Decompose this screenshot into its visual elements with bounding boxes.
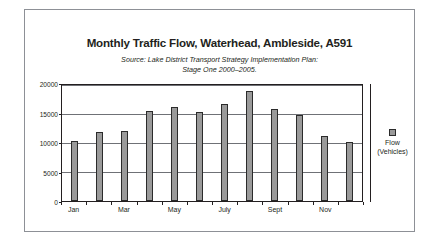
- legend-label-line-1: Flow: [377, 139, 408, 148]
- x-tick-label-empty: [338, 206, 363, 213]
- bar-slot: [162, 85, 187, 201]
- x-axis-labels: JanMarMayJulySeptNov: [61, 206, 363, 213]
- y-tick-label-10000: 10000: [40, 140, 58, 147]
- bar-mar[interactable]: [121, 131, 128, 201]
- chart-figure: Monthly Traffic Flow, Waterhead, Amblesi…: [24, 9, 415, 232]
- chart-legend: Flow (Vehicles): [370, 84, 414, 202]
- bar-slot: [337, 85, 362, 201]
- x-tick-mark: [338, 202, 339, 205]
- bar-oct[interactable]: [296, 115, 303, 201]
- x-tick-label-nov: Nov: [313, 206, 338, 213]
- x-tick-label-jan: Jan: [61, 206, 86, 213]
- x-tick-mark: [137, 202, 138, 205]
- x-tick-mark: [187, 202, 188, 205]
- x-tick-mark: [237, 202, 238, 205]
- bar-slot: [262, 85, 287, 201]
- x-tick-label-empty: [288, 206, 313, 213]
- bar-nov[interactable]: [321, 136, 328, 201]
- x-tick-label-empty: [86, 206, 111, 213]
- bar-jan[interactable]: [71, 141, 78, 201]
- bar-slot: [212, 85, 237, 201]
- bar-slot: [137, 85, 162, 201]
- chart-title: Monthly Traffic Flow, Waterhead, Amblesi…: [25, 36, 414, 49]
- bar-slot: [87, 85, 112, 201]
- y-tick-label-0: 0: [54, 199, 58, 206]
- bar-dec[interactable]: [346, 142, 353, 201]
- x-tick-label-sept: Sept: [262, 206, 287, 213]
- x-tick-label-mar: Mar: [111, 206, 136, 213]
- bar-apr[interactable]: [146, 111, 153, 201]
- y-tick-label-5000: 5000: [43, 169, 58, 176]
- x-tick-label-empty: [237, 206, 262, 213]
- plot-area: [61, 84, 363, 202]
- bar-aug[interactable]: [246, 91, 253, 201]
- bar-slot: [112, 85, 137, 201]
- bar-slot: [312, 85, 337, 201]
- bar-slot: [287, 85, 312, 201]
- x-tick-mark: [86, 202, 87, 205]
- bar-july[interactable]: [221, 104, 228, 201]
- x-tick-mark: [111, 202, 112, 205]
- x-tick-mark: [262, 202, 263, 205]
- legend-swatch-icon: [389, 129, 396, 136]
- x-tick-mark: [162, 202, 163, 205]
- x-tick-mark: [313, 202, 314, 205]
- legend-label: Flow (Vehicles): [377, 139, 408, 156]
- y-tick-label-15000: 15000: [40, 110, 58, 117]
- chart-subtitle: Source: Lake District Transport Strategy…: [25, 55, 414, 74]
- legend-entry: Flow (Vehicles): [377, 129, 408, 156]
- x-tick-mark: [288, 202, 289, 205]
- bar-feb[interactable]: [96, 132, 103, 201]
- chart-subtitle-line-2: Stage One 2000–2005.: [25, 65, 414, 75]
- bar-slot: [237, 85, 262, 201]
- x-tick-label-july: July: [212, 206, 237, 213]
- bar-may[interactable]: [171, 107, 178, 201]
- bar-slot: [187, 85, 212, 201]
- bar-slot: [62, 85, 87, 201]
- chart-subtitle-line-1: Source: Lake District Transport Strategy…: [25, 55, 414, 65]
- x-tick-mark: [212, 202, 213, 205]
- x-tick-label-empty: [187, 206, 212, 213]
- y-tick-label-20000: 20000: [40, 81, 58, 88]
- x-tick-label-empty: [137, 206, 162, 213]
- legend-label-line-2: (Vehicles): [377, 148, 408, 157]
- x-tick-mark: [61, 202, 62, 205]
- x-tick-mark: [363, 202, 364, 205]
- bar-series: [62, 85, 362, 201]
- bar-jun[interactable]: [196, 112, 203, 201]
- x-tick-label-may: May: [162, 206, 187, 213]
- bar-sept[interactable]: [271, 109, 278, 202]
- y-axis-labels: 20000 15000 10000 5000 0: [25, 84, 58, 202]
